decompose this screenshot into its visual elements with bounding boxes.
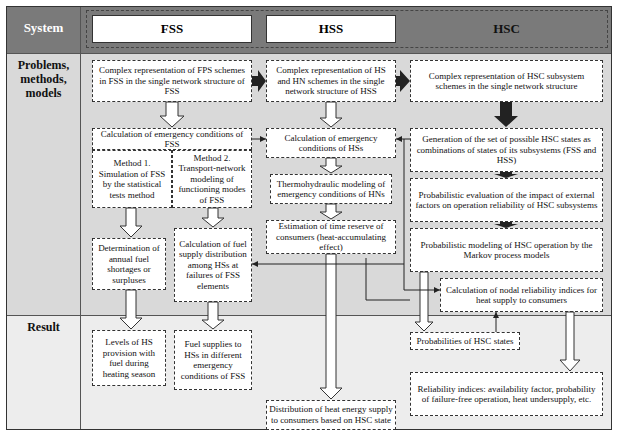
box-fss-method1: Method 1. Simulation of FSS by the stati… <box>92 150 172 208</box>
box-hss-time: Estimation of time reserve of consumers … <box>266 220 396 254</box>
box-fss-method2: Method 2. Transport-network modeling of … <box>172 150 252 208</box>
box-fss-result-supplies: Fuel supplies to HSs in different emerge… <box>174 330 252 390</box>
box-fss-distribution: Calculation of fuel supply distribution … <box>174 228 252 302</box>
box-hsc-complex: Complex representation of HSC subsystem … <box>410 60 603 102</box>
box-fss-calc: Calculation of emergency conditions of F… <box>92 128 252 150</box>
row-label-problems: Problems, methods, models <box>8 58 79 100</box>
box-hss-calc: Calculation of emergency conditions of H… <box>266 128 396 158</box>
box-hsc-probabilistic-eval: Probabilistic evaluation of the impact o… <box>410 178 603 222</box>
system-fss: FSS <box>92 15 252 43</box>
row-label-result: Result <box>6 320 81 334</box>
box-hss-result: Distribution of heat energy supply to co… <box>266 400 396 430</box>
box-hsc-nodal: Calculation of nodal reliability indices… <box>440 278 603 312</box>
box-fss-complex: Complex representation of FPS schemes in… <box>92 60 252 102</box>
box-hsc-markov: Probabilistic modeling of HSC operation … <box>410 228 603 272</box>
system-hsc: HSC <box>410 15 603 43</box>
box-fss-result-levels: Levels of HS provision with fuel during … <box>92 330 166 386</box>
box-hsc-result-indices: Reliability indices: availability factor… <box>410 372 603 416</box>
box-hsc-result-probs: Probabilities of HSC states <box>410 332 520 350</box>
system-hss: HSS <box>266 15 396 43</box>
box-hsc-generation: Generation of the set of possible HSC st… <box>410 128 603 172</box>
box-hss-thermo: Thermohydraulic modeling of emergency co… <box>270 174 392 204</box>
box-hss-complex: Complex representation of HS and HN sche… <box>266 60 396 102</box>
row-label-system: System <box>6 21 81 35</box>
box-fss-annual: Determination of annual fuel shortages o… <box>92 238 166 290</box>
